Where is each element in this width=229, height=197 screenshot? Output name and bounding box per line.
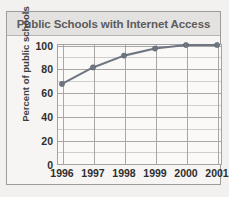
x-tick-label-2001: 2001 (200, 168, 229, 179)
data-point-1997 (90, 65, 95, 70)
x-tick-label-1998: 1998 (107, 168, 141, 179)
y-tick-label-60: 60 (25, 88, 53, 98)
data-point-1996 (59, 81, 64, 86)
x-tick-label-1996: 1996 (45, 168, 79, 179)
series-line (62, 45, 217, 84)
page-title: Public Schools with Internet Access (17, 18, 211, 30)
x-tick-label-1997: 1997 (76, 168, 110, 179)
data-series (57, 44, 222, 165)
series-markers (59, 42, 219, 86)
y-tick-label-40: 40 (25, 112, 53, 122)
data-point-1998 (121, 53, 126, 58)
chart-figure: Public Schools with Internet Access Perc… (0, 0, 229, 197)
x-tick-label-2000: 2000 (169, 168, 203, 179)
y-tick-label-100: 100 (25, 41, 53, 51)
data-point-2000 (183, 42, 188, 47)
data-point-1999 (152, 46, 157, 51)
chart-title-bar: Public Schools with Internet Access (7, 12, 220, 36)
y-tick-label-80: 80 (25, 64, 53, 74)
data-point-2001 (214, 42, 219, 47)
y-tick-label-20: 20 (25, 136, 53, 146)
x-tick-label-1999: 1999 (138, 168, 172, 179)
